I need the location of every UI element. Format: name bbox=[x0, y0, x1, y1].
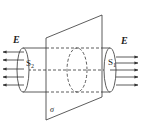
charged-plane bbox=[46, 15, 102, 120]
field-label-right: E bbox=[120, 35, 128, 46]
cylinder bbox=[23, 48, 110, 92]
surface-label-s2: S2 bbox=[26, 58, 34, 69]
field-label-left: E bbox=[12, 34, 20, 45]
plane-label-sigma: σ bbox=[50, 105, 55, 114]
gauss-diagram: E E S2 S1 σ bbox=[0, 0, 141, 129]
